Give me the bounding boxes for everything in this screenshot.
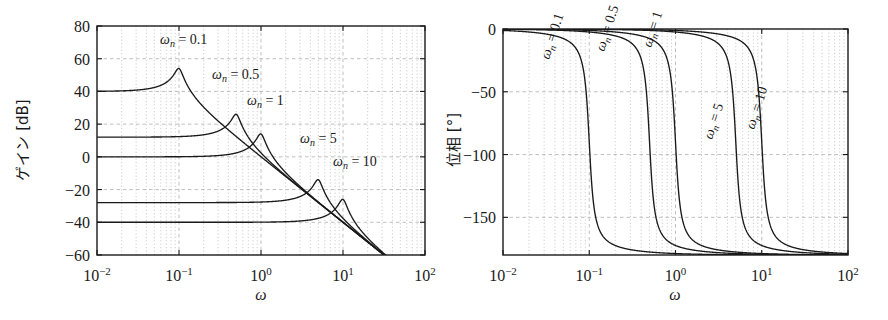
svg-text:102: 102 — [414, 265, 436, 284]
phase-annotation-wn-5: ωn = 5 — [701, 101, 729, 141]
svg-text:0: 0 — [82, 149, 90, 166]
gain-annotation-wn-0p5: ωn = 0.5 — [212, 67, 259, 84]
bode-plot-figure: 806040200−20−40−60 10−210−1100101102 ωn … — [0, 0, 888, 320]
gain-annotation-wn-10: ωn = 10 — [333, 154, 377, 171]
svg-text:100: 100 — [250, 265, 272, 284]
svg-text:−100: −100 — [463, 147, 496, 164]
gain-y-tick-labels: 806040200−20−40−60 — [65, 18, 90, 264]
svg-text:−60: −60 — [65, 247, 90, 264]
svg-text:102: 102 — [837, 265, 859, 284]
svg-text:−50: −50 — [471, 84, 496, 101]
svg-text:10−2: 10−2 — [83, 265, 111, 284]
gain-plot-panel: 806040200−20−40−60 10−210−1100101102 ωn … — [0, 0, 444, 320]
svg-text:10−1: 10−1 — [575, 265, 603, 284]
svg-text:−20: −20 — [65, 182, 90, 199]
svg-text:20: 20 — [74, 116, 90, 133]
gain-annotation-wn-0p1: ωn = 0.1 — [160, 32, 207, 49]
svg-text:101: 101 — [332, 265, 354, 284]
svg-text:0: 0 — [488, 21, 496, 38]
gain-y-axis-title: ゲイン [dB] — [14, 99, 32, 180]
svg-text:10−2: 10−2 — [489, 265, 517, 284]
gain-x-axis-title: ω — [255, 286, 266, 303]
svg-text:100: 100 — [665, 265, 687, 284]
phase-annotation-wn-10: ωn = 10 — [743, 85, 773, 132]
svg-text:−150: −150 — [463, 209, 496, 226]
svg-text:−40: −40 — [65, 214, 90, 231]
svg-text:101: 101 — [751, 265, 773, 284]
phase-x-tick-labels: 10−210−1100101102 — [489, 265, 859, 284]
gain-plot-svg: 806040200−20−40−60 10−210−1100101102 ωn … — [0, 0, 444, 320]
gain-annotation-wn-1: ωn = 1 — [247, 93, 284, 110]
phase-plot-svg: 0−50−100−150 10−210−1100101102 ωn = 0.1ω… — [444, 0, 888, 320]
svg-text:80: 80 — [74, 18, 90, 35]
svg-text:40: 40 — [74, 83, 90, 100]
phase-y-axis-title: 位相 [°] — [445, 113, 463, 167]
svg-text:10−1: 10−1 — [165, 265, 193, 284]
phase-curve-annotations: ωn = 0.1ωn = 0.5ωn = 1ωn = 5ωn = 10 — [538, 3, 773, 141]
gain-gridlines — [97, 26, 425, 255]
phase-x-axis-title: ω — [669, 286, 680, 303]
gain-x-tick-labels: 10−210−1100101102 — [83, 265, 436, 284]
gain-annotation-wn-5: ωn = 5 — [300, 131, 337, 148]
phase-y-tick-labels: 0−50−100−150 — [463, 21, 496, 226]
phase-annotation-wn-0p1: ωn = 0.1 — [538, 11, 569, 61]
phase-plot-panel: 0−50−100−150 10−210−1100101102 ωn = 0.1ω… — [444, 0, 888, 320]
svg-text:60: 60 — [74, 51, 90, 68]
